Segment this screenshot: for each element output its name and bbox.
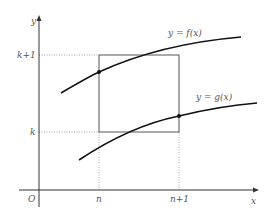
point-g-at-n-plus-1 xyxy=(177,114,181,118)
coordinate-diagram: y x O k+1 k n n+1 y = f(x) y = g(x) xyxy=(0,0,273,218)
curve-g-label: y = g(x) xyxy=(195,92,233,102)
y-axis-arrow-icon xyxy=(37,15,42,21)
point-f-at-n xyxy=(97,70,101,74)
y-axis-label: y xyxy=(30,16,37,26)
tick-label-k-plus-1: k+1 xyxy=(17,50,36,60)
tick-label-k: k xyxy=(30,127,35,137)
tick-label-n-plus-1: n+1 xyxy=(170,194,189,204)
x-axis-label: x xyxy=(251,196,256,206)
curve-f xyxy=(61,37,241,93)
tick-label-n: n xyxy=(96,194,102,204)
curve-f-label: y = f(x) xyxy=(167,28,202,38)
origin-label: O xyxy=(28,194,36,204)
x-axis-arrow-icon xyxy=(253,188,259,193)
dotted-guides xyxy=(39,55,179,190)
axes xyxy=(19,15,259,207)
